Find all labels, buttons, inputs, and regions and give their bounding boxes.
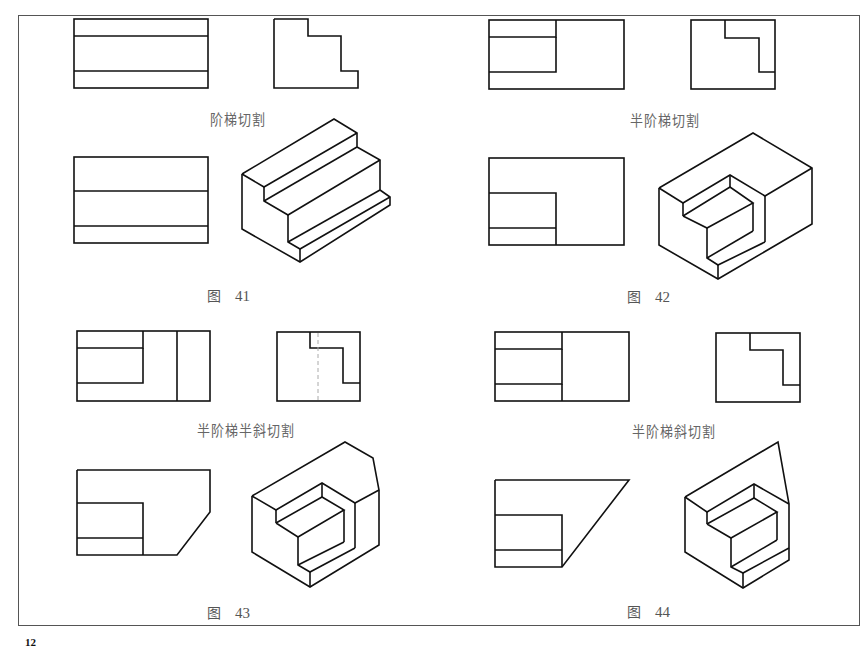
fig42-caption-prefix: 图 [627,289,641,305]
fig44-front-view-top [495,332,629,401]
fig43-caption-prefix: 图 [207,605,221,621]
fig43-isometric-view [252,442,379,587]
fig42-isometric-view [659,133,812,279]
fig42-cut-label: 半阶梯切割 [630,109,700,130]
fig43-front-view-top [77,331,210,401]
fig44-side-view [716,333,800,402]
fig42-front-view-top [489,20,624,89]
fig41-isometric-view [242,119,390,262]
fig44-cut-label: 半阶梯斜切割 [632,420,716,441]
fig43-top-view [77,470,210,555]
fig42-caption: 图42 [627,286,670,306]
fig43-caption: 图43 [207,602,250,622]
fig41-caption-prefix: 图 [207,288,221,304]
fig41-drawings [74,19,390,262]
fig41-side-view [274,19,358,88]
fig44-caption: 图44 [627,601,670,621]
fig42-number: 42 [655,289,670,305]
fig42-side-view [691,20,775,89]
fig44-number: 44 [655,604,670,620]
fig43-cut-label: 半阶梯半斜切割 [197,419,295,440]
fig42-top-view [489,158,624,245]
fig42-drawings [489,20,812,279]
fig41-top-view [74,157,208,243]
page-number: 12 [25,636,36,648]
fig41-caption: 图41 [207,285,250,305]
fig43-side-view [277,332,360,401]
fig44-top-view [495,480,629,567]
fig41-cut-label: 阶梯切割 [210,108,266,129]
fig43-number: 43 [235,605,250,621]
technical-drawings [0,0,864,649]
fig44-caption-prefix: 图 [627,604,641,620]
fig43-drawings [77,331,379,587]
fig44-drawings [495,332,800,588]
fig41-number: 41 [235,288,250,304]
fig44-isometric-view [685,442,789,588]
fig41-front-view-top [74,19,208,88]
